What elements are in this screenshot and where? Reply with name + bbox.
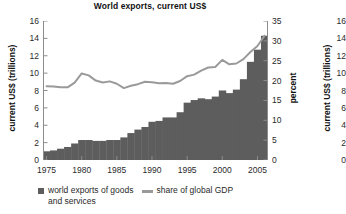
y-tick-left-14: 14 xyxy=(17,34,39,43)
bar xyxy=(92,141,99,160)
cropped-y-tick-8: 8 xyxy=(330,87,346,96)
chart-figure-cropped: current US$ (trillions) 1614121086420 xyxy=(310,0,346,214)
bar xyxy=(99,141,106,160)
y-tick-right-0: 0 xyxy=(272,156,294,165)
legend-line-swatch-icon xyxy=(142,190,153,193)
bar xyxy=(247,62,254,160)
bar xyxy=(177,112,184,160)
y-tick-right-15: 15 xyxy=(272,96,294,105)
y-axis-right-title: percent xyxy=(288,33,298,143)
legend-bar-label-line2: and services xyxy=(48,196,288,207)
bar xyxy=(198,98,205,160)
y-axis-left-tick-marks xyxy=(44,21,48,160)
bar xyxy=(50,150,57,160)
x-tick-1990: 1990 xyxy=(135,166,169,175)
y-tick-left-4: 4 xyxy=(17,121,39,130)
chart-title: World exports, current US$ xyxy=(0,1,300,11)
x-tick-1980: 1980 xyxy=(65,166,99,175)
bar xyxy=(64,147,71,160)
legend-line-label: share of global GDP xyxy=(157,185,234,196)
y-axis-left-title: current US$ (trillions) xyxy=(7,33,17,143)
bar xyxy=(233,90,240,160)
y-tick-right-30: 30 xyxy=(272,37,294,46)
bar xyxy=(226,93,233,160)
plot-svg xyxy=(43,21,268,160)
cropped-y-tick-6: 6 xyxy=(330,104,346,113)
bar xyxy=(254,50,261,160)
x-tick-1975: 1975 xyxy=(30,166,64,175)
cropped-y-tick-12: 12 xyxy=(330,52,346,61)
y-tick-right-10: 10 xyxy=(272,116,294,125)
cropped-y-tick-2: 2 xyxy=(330,139,346,148)
cropped-y-tick-14: 14 xyxy=(330,34,346,43)
bar-series xyxy=(43,36,268,160)
bar xyxy=(71,143,78,160)
legend-bar-label: world exports of goods xyxy=(48,185,134,196)
x-tick-1995: 1995 xyxy=(170,166,204,175)
bar xyxy=(134,130,141,160)
bar xyxy=(163,117,170,160)
legend-item-bar: world exports of goods xyxy=(38,185,134,196)
bar xyxy=(191,100,198,160)
bar xyxy=(141,127,148,160)
cropped-y-tick-4: 4 xyxy=(330,121,346,130)
y-tick-left-8: 8 xyxy=(17,87,39,96)
chart-legend: world exports of goods share of global G… xyxy=(38,185,288,207)
cropped-y-tick-16: 16 xyxy=(330,17,346,26)
y-tick-right-20: 20 xyxy=(272,77,294,86)
y-tick-right-25: 25 xyxy=(272,57,294,66)
y-tick-left-2: 2 xyxy=(17,139,39,148)
bar xyxy=(57,149,64,160)
legend-item-line: share of global GDP xyxy=(142,185,234,196)
line-series xyxy=(47,36,265,88)
bar xyxy=(148,122,155,160)
bar xyxy=(120,137,127,160)
x-tick-2005: 2005 xyxy=(240,166,274,175)
bar xyxy=(184,103,191,160)
y-tick-right-5: 5 xyxy=(272,136,294,145)
bar xyxy=(261,36,268,160)
bar xyxy=(85,140,92,160)
plot-area xyxy=(43,21,268,160)
x-tick-1985: 1985 xyxy=(100,166,134,175)
bar xyxy=(240,79,247,160)
chart-figure: World exports, current US$ current US$ (… xyxy=(0,0,310,214)
x-tick-2000: 2000 xyxy=(205,166,239,175)
bar xyxy=(170,117,177,160)
bar xyxy=(219,91,226,161)
y-tick-left-10: 10 xyxy=(17,69,39,78)
bar xyxy=(127,133,134,160)
y-tick-right-35: 35 xyxy=(272,17,294,26)
y-tick-left-12: 12 xyxy=(17,52,39,61)
cropped-y-tick-0: 0 xyxy=(330,156,346,165)
cropped-y-tick-10: 10 xyxy=(330,69,346,78)
y-tick-left-16: 16 xyxy=(17,17,39,26)
y-tick-left-0: 0 xyxy=(17,156,39,165)
y-tick-left-6: 6 xyxy=(17,104,39,113)
bar xyxy=(205,99,212,160)
legend-bar-swatch-icon xyxy=(38,188,44,194)
bar xyxy=(106,140,113,160)
bar xyxy=(156,121,163,160)
bar xyxy=(212,97,219,160)
